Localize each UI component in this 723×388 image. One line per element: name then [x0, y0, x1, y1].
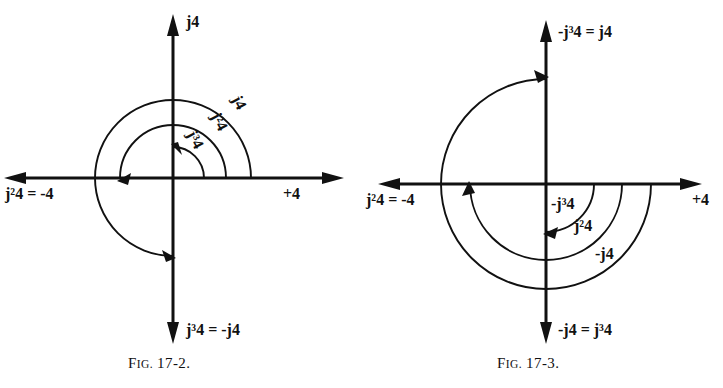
axis-arrow-right-icon	[680, 178, 702, 190]
fig-17-2-caption: FIG. 17-2.	[128, 355, 190, 372]
figure-page: j4 +4 j²4 = -4 j³4 = -j4 j4 j²4 j³4 FIG.…	[0, 0, 723, 388]
axis-arrow-up-icon	[540, 20, 552, 42]
fig-17-3-arc-label-neg-j4: -j4	[595, 246, 614, 262]
rotation-arc-j4	[173, 147, 204, 178]
fig-17-3-caption: FIG. 17-3.	[497, 355, 559, 372]
axis-arrow-left-icon	[378, 178, 400, 190]
fig-17-3-label-right: +4	[692, 192, 709, 208]
fig-17-3-arc-label-neg-j3-4: -j³4	[551, 196, 574, 212]
fig-17-2-label-left: j²4 = -4	[5, 186, 54, 202]
axis-arrow-left-icon	[4, 172, 26, 184]
fig-17-3-drawing	[362, 0, 723, 350]
axis-arrow-right-icon	[322, 172, 344, 184]
fig-17-2-label-down: j³4 = -j4	[186, 322, 240, 338]
fig-17-2-label-up: j4	[186, 14, 199, 30]
fig-17-3-label-up: -j³4 = j4	[558, 24, 612, 40]
fig-17-3-label-down: -j4 = j³4	[558, 322, 612, 338]
fig-17-2-drawing	[0, 0, 362, 350]
fig-17-2-label-right: +4	[283, 186, 300, 202]
axis-arrow-down-icon	[167, 322, 179, 344]
fig-17-3-arc-label-j2-4: j²4	[574, 218, 592, 234]
fig-17-3-label-left: j²4 = -4	[366, 192, 415, 208]
axis-arrow-down-icon	[540, 322, 552, 344]
axis-arrow-up-icon	[167, 14, 179, 36]
